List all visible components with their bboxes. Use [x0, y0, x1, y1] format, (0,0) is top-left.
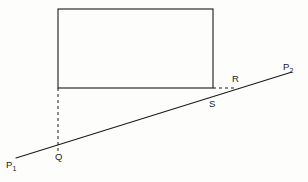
label-p2-sub: 2 [289, 67, 293, 74]
diagram-canvas [0, 0, 308, 182]
label-p1: P1 [6, 160, 16, 172]
label-p2: P2 [283, 62, 293, 74]
label-p1-sub: 1 [12, 165, 16, 172]
label-q: Q [55, 152, 63, 162]
line-p1-p2 [16, 72, 292, 158]
label-s: S [209, 99, 215, 109]
label-r: R [232, 74, 239, 84]
geometry-figure: P1 Q S R P2 [0, 0, 308, 182]
rectangle-shape [58, 9, 213, 88]
